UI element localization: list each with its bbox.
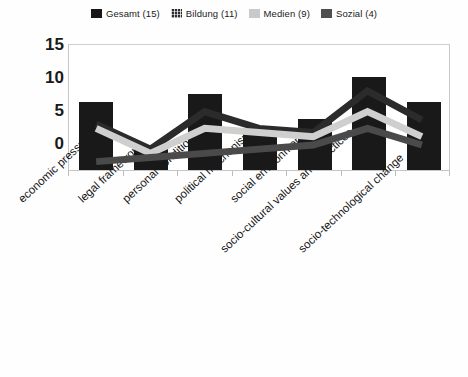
legend-item-medien: Medien (9) bbox=[249, 8, 310, 19]
x-axis-labels: economic pressure legal framework person… bbox=[0, 178, 468, 377]
square-swatch-light-gray-icon bbox=[249, 9, 260, 18]
x-axis-tickmark bbox=[232, 171, 233, 176]
square-swatch-crosshatch-icon bbox=[171, 9, 182, 18]
x-axis-tickmark bbox=[123, 171, 124, 176]
legend-item-label: Sozial (4) bbox=[336, 8, 377, 19]
y-axis-tick-label: 0 bbox=[14, 135, 64, 152]
plot-area bbox=[68, 44, 450, 171]
legend-item-label: Gesamt (15) bbox=[106, 8, 160, 19]
chart-legend: Gesamt (15) Bildung (11) Medien (9) Sozi… bbox=[0, 8, 468, 19]
x-axis-tickmark bbox=[177, 171, 178, 176]
line-series-layer bbox=[69, 45, 449, 170]
legend-item-label: Medien (9) bbox=[264, 8, 310, 19]
square-swatch-solid-black-icon bbox=[91, 9, 102, 18]
x-axis-tickmark bbox=[449, 171, 450, 176]
chart-plot-wrapper: 15 10 5 0 bbox=[0, 28, 468, 178]
legend-item-gesamt: Gesamt (15) bbox=[91, 8, 160, 19]
y-axis-tick-label: 5 bbox=[14, 102, 64, 119]
x-axis-tickmark bbox=[68, 171, 69, 176]
x-axis-tickmark bbox=[286, 171, 287, 176]
legend-item-label: Bildung (11) bbox=[186, 8, 238, 19]
legend-item-sozial: Sozial (4) bbox=[321, 8, 377, 19]
y-axis-tick-label: 10 bbox=[14, 69, 64, 86]
y-axis-tick-label: 15 bbox=[14, 36, 64, 53]
line-series-bildung bbox=[96, 91, 422, 149]
x-axis-tickmark bbox=[341, 171, 342, 176]
square-swatch-dark-gray-icon bbox=[321, 9, 332, 18]
legend-item-bildung: Bildung (11) bbox=[171, 8, 238, 19]
x-axis-tickmark bbox=[395, 171, 396, 176]
y-axis: 15 10 5 0 bbox=[14, 36, 64, 170]
